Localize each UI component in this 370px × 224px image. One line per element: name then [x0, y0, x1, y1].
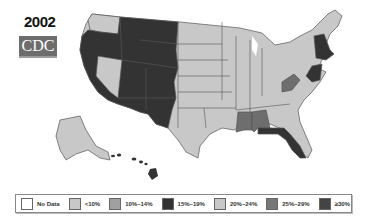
legend-item-ge30: ≥30%: [319, 198, 350, 210]
swatch-25-29: [266, 198, 278, 210]
region-west-dark: [80, 17, 178, 128]
legend-label: 15%–19%: [178, 201, 205, 207]
swatch-15-19: [162, 198, 174, 210]
swatch-lt10: [69, 198, 81, 210]
swatch-20-24: [214, 198, 226, 210]
swatch-no-data: [21, 198, 33, 210]
state-mississippi: [236, 112, 252, 132]
legend-label: 10%–14%: [125, 201, 152, 207]
legend-item-15-19: 15%–19%: [162, 198, 205, 210]
legend-label: No Data: [37, 201, 60, 207]
legend-label: ≥30%: [335, 201, 350, 207]
swatch-ge30: [319, 198, 331, 210]
swatch-10-14: [109, 198, 121, 210]
state-hawaii: [111, 154, 158, 181]
legend-label: 25%–29%: [282, 201, 309, 207]
legend-item-25-29: 25%–29%: [266, 198, 309, 210]
legend-item-10-14: 10%–14%: [109, 198, 152, 210]
legend-item-lt10: <10%: [69, 198, 101, 210]
legend-label: 20%–24%: [230, 201, 257, 207]
legend-item-20-24: 20%–24%: [214, 198, 257, 210]
legend: No Data <10% 10%–14% 15%–19% 20%–24% 25%…: [15, 194, 352, 213]
region-new-england-dark: [314, 34, 334, 60]
state-alaska: [56, 116, 110, 160]
us-map: [0, 0, 370, 190]
legend-item-no-data: No Data: [21, 198, 60, 210]
legend-label: <10%: [85, 201, 101, 207]
